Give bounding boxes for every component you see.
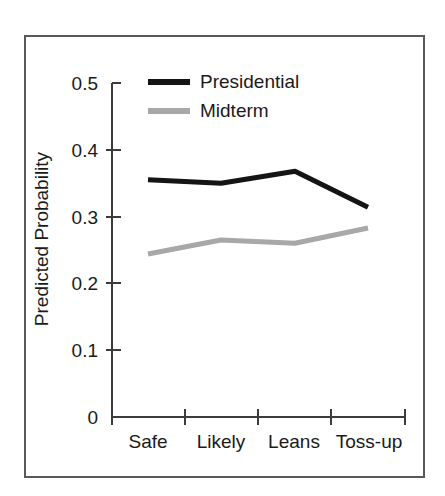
chart-figure: 0.5 0.4 0.3 0.2 0.1 0 Safe Likely Leans … (0, 0, 445, 496)
series-line-presidential (148, 171, 368, 207)
legend-label-midterm: Midterm (200, 101, 269, 120)
x-tick-label-leans: Leans (254, 432, 334, 451)
x-tick-label-tossup: Toss-up (328, 432, 410, 451)
x-tick-label-likely: Likely (181, 432, 261, 451)
series-line-midterm (148, 228, 368, 254)
legend-label-presidential: Presidential (200, 72, 299, 91)
y-tick-label-5: 0 (38, 408, 98, 427)
y-axis-title: Predicted Probability (31, 119, 53, 359)
x-tick-label-safe: Safe (108, 432, 188, 451)
y-tick-label-0: 0.5 (38, 74, 98, 93)
